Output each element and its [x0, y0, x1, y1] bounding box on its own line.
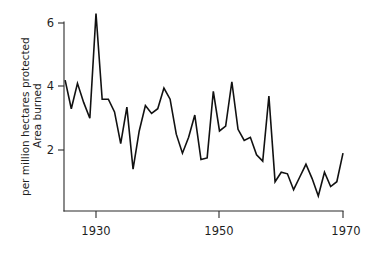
- data-series-line: [65, 13, 343, 196]
- y-tick-label-2: 2: [47, 143, 54, 157]
- y-tick-label-4: 4: [47, 79, 54, 93]
- y-axis-label-line1: Area burned: [31, 83, 43, 148]
- x-tick-label-1970: 1970: [331, 224, 360, 238]
- chart-figure: 6 4 2 1930 1950 1970 Area burned per mil…: [0, 0, 375, 255]
- line-chart-canvas: 6 4 2 1930 1950 1970 Area burned per mil…: [0, 0, 375, 255]
- x-tick-label-1930: 1930: [81, 224, 110, 238]
- y-axis-label-line2: per million hectares protected: [19, 37, 31, 196]
- x-tick-label-1950: 1950: [204, 224, 233, 238]
- y-tick-label-6: 6: [47, 16, 54, 30]
